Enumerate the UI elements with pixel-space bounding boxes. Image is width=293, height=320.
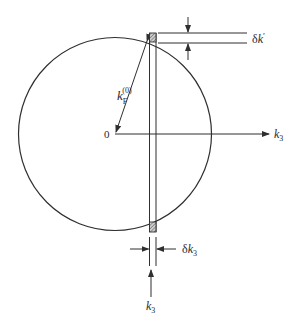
- fermi-sphere-diagram: 0 kF(0) k3 δk′ δk3 k3: [0, 0, 293, 320]
- dk3-label: δk3: [182, 242, 197, 258]
- k3-axis-label: k3: [274, 127, 283, 143]
- origin-label: 0: [104, 128, 110, 140]
- fermi-radius-label: kF(0): [117, 86, 132, 106]
- dk-prime-label: δk′: [252, 31, 265, 46]
- bottom-shaded-box: [150, 222, 157, 232]
- top-shaded-box: [150, 33, 157, 42]
- k3-position-label: k3: [146, 299, 155, 315]
